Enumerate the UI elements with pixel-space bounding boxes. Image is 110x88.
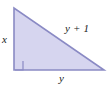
- right-triangle-figure: x y + 1 y: [0, 0, 110, 88]
- triangle-diagram: [0, 0, 110, 88]
- label-vertical-leg: x: [2, 34, 7, 45]
- label-horizontal-leg: y: [59, 73, 64, 84]
- triangle-shape: [14, 8, 104, 70]
- label-hypotenuse: y + 1: [65, 23, 89, 34]
